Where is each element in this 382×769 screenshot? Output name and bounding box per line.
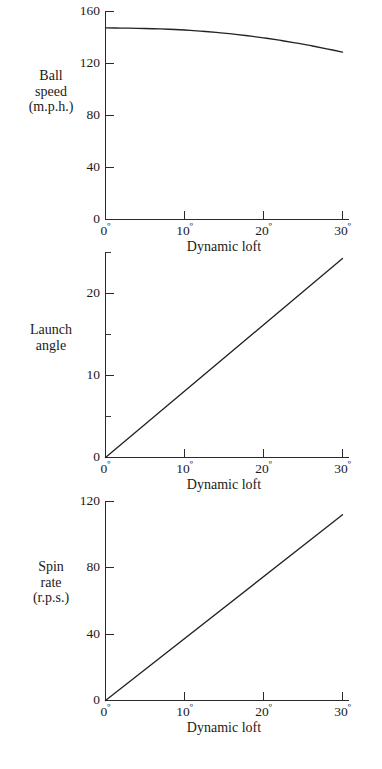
degree-symbol: º xyxy=(190,702,193,713)
x-tick-label-20: 20º xyxy=(243,224,284,238)
y-tick-label-10: 10 xyxy=(58,368,100,382)
degree-symbol: º xyxy=(269,702,272,713)
y-tick-label-40: 40 xyxy=(58,627,100,641)
y-tick-label-40: 40 xyxy=(58,160,100,174)
y-tick-label-120: 120 xyxy=(58,494,100,508)
degree-symbol: º xyxy=(348,459,351,470)
y-axis-title-line-3: (r.p.s.) xyxy=(8,590,94,606)
degree-symbol: º xyxy=(348,702,351,713)
degree-symbol: º xyxy=(190,459,193,470)
x-tick-label-30: 30º xyxy=(322,705,363,719)
x-tick-label-10: 10º xyxy=(164,224,205,238)
x-tick-label-0: 0º xyxy=(85,705,126,719)
x-tick-label-10: 10º xyxy=(164,462,205,476)
y-axis-title-line-2: speed xyxy=(8,84,94,100)
x-axis-title: Dynamic loft xyxy=(164,720,284,736)
degree-symbol: º xyxy=(348,221,351,232)
x-tick-label-30: 30º xyxy=(322,224,363,238)
y-tick-label-160: 160 xyxy=(58,4,100,18)
y-axis-title-line-1: Launch xyxy=(8,322,94,338)
launch-angle-line xyxy=(106,259,343,458)
y-axis-title-line-2: angle xyxy=(8,338,94,354)
degree-symbol: º xyxy=(107,702,110,713)
x-tick-label-0: 0º xyxy=(85,462,126,476)
chart-panel-spin-rate: 120 80 40 0 0º 10º 20º 30º Dynamic loft … xyxy=(0,481,382,769)
degree-symbol: º xyxy=(107,459,110,470)
y-axis-title-line-1: Spin xyxy=(8,559,94,575)
y-tick-label-20: 20 xyxy=(58,286,100,300)
x-tick-label-30: 30º xyxy=(322,462,363,476)
chart-panel-ball-speed: 160 120 80 40 0 0º 10º 20º 30º Dynamic l… xyxy=(0,0,382,256)
spin-rate-line xyxy=(106,515,343,701)
y-axis-title-line-2: rate xyxy=(8,575,94,591)
degree-symbol: º xyxy=(269,459,272,470)
y-axis-title-line-3: (m.p.h.) xyxy=(8,99,94,115)
chart-panel-launch-angle: 20 10 0 0º 10º 20º 30º Dynamic loft Laun… xyxy=(0,238,382,494)
degree-symbol: º xyxy=(107,221,110,232)
x-tick-label-0: 0º xyxy=(85,224,126,238)
ball-speed-curve xyxy=(106,28,343,52)
x-tick-label-10: 10º xyxy=(164,705,205,719)
y-axis-title: Ball speed (m.p.h.) xyxy=(8,68,94,115)
golf-ball-launch-conditions-figure: 160 120 80 40 0 0º 10º 20º 30º Dynamic l… xyxy=(0,0,382,769)
y-axis-title-line-1: Ball xyxy=(8,68,94,84)
x-tick-label-20: 20º xyxy=(243,705,284,719)
y-axis-title: Launch angle xyxy=(8,322,94,353)
degree-symbol: º xyxy=(269,221,272,232)
degree-symbol: º xyxy=(190,221,193,232)
x-tick-label-20: 20º xyxy=(243,462,284,476)
y-axis-title: Spin rate (r.p.s.) xyxy=(8,559,94,606)
